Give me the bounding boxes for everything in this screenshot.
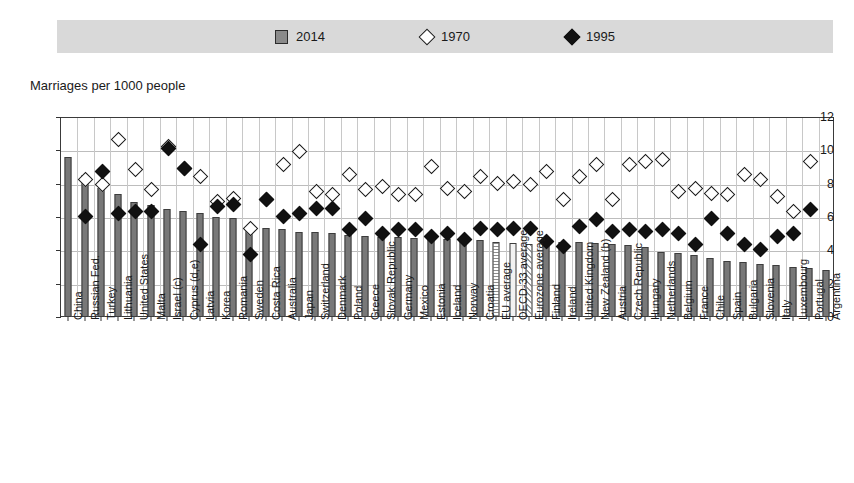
bar-2014 xyxy=(65,157,72,317)
marker-1970 xyxy=(292,144,308,160)
marker-1970 xyxy=(457,184,473,200)
marker-1970 xyxy=(111,132,127,148)
x-axis-label: Malta xyxy=(155,293,167,320)
marker-1995 xyxy=(276,209,292,225)
x-axis-label: Switzerland xyxy=(319,263,331,320)
marker-1970 xyxy=(555,192,571,208)
marker-1970 xyxy=(473,169,489,185)
marker-1995 xyxy=(605,224,621,240)
x-axis-label: China xyxy=(72,291,84,320)
marker-1970 xyxy=(358,182,374,198)
x-axis-label: Cyprus (d,e) xyxy=(188,259,200,320)
x-axis-label: EU average xyxy=(500,262,512,320)
x-axis-label: Latvia xyxy=(204,291,216,320)
marker-1995 xyxy=(358,210,374,226)
x-axis-label: United States xyxy=(138,254,150,320)
marker-1995 xyxy=(803,202,819,218)
marker-1970 xyxy=(523,177,539,193)
x-axis-label: Slovak Republic xyxy=(385,241,397,320)
marker-1995 xyxy=(308,200,324,216)
marker-1970 xyxy=(374,179,390,195)
x-axis-label: Chile xyxy=(714,295,726,320)
x-axis-label: Poland xyxy=(352,286,364,320)
chart-plot-area: 024681012 xyxy=(30,110,834,317)
marker-1970 xyxy=(654,152,670,168)
marker-1995 xyxy=(654,222,670,238)
marker-1995 xyxy=(177,160,193,176)
x-axis-label: Norway xyxy=(467,283,479,320)
marker-1970 xyxy=(490,175,506,191)
marker-1995 xyxy=(407,222,423,238)
marker-1970 xyxy=(671,184,687,200)
marker-1995 xyxy=(473,220,489,236)
x-axis-label: Czech Republic xyxy=(632,243,644,320)
x-axis-label: United Kingdom xyxy=(583,242,595,320)
x-axis-label: OECD-33 average xyxy=(517,230,529,321)
x-axis-label: Ireland xyxy=(566,286,578,320)
filled-diamond-icon xyxy=(563,28,580,45)
x-axis-label: Germany xyxy=(402,275,414,320)
x-axis-label: Australia xyxy=(286,277,298,320)
marker-1995 xyxy=(753,242,769,258)
marker-1995 xyxy=(325,200,341,216)
marker-1970 xyxy=(539,164,555,180)
x-axis-label: Japan xyxy=(303,290,315,320)
x-axis-label: Portugal xyxy=(813,279,825,320)
marker-1995 xyxy=(621,222,637,238)
chart-column xyxy=(719,117,735,317)
marker-1970 xyxy=(753,172,769,188)
marker-1970 xyxy=(588,157,604,173)
x-axis-label: Denmark xyxy=(336,275,348,320)
legend-item-2014: 2014 xyxy=(275,29,325,44)
marker-1995 xyxy=(292,205,308,221)
bar-swatch-icon xyxy=(275,30,288,44)
x-axis-label: Italy xyxy=(780,300,792,320)
marker-1970 xyxy=(605,192,621,208)
x-axis-label: Austria xyxy=(616,286,628,320)
legend-item-1970: 1970 xyxy=(421,29,470,44)
marker-1970 xyxy=(193,169,209,185)
marker-1995 xyxy=(638,224,654,240)
marker-1970 xyxy=(144,182,160,198)
x-axis-label: Korea xyxy=(220,291,232,320)
marker-1995 xyxy=(786,225,802,241)
x-axis-label: Croatia xyxy=(484,285,496,320)
chart-legend: 2014 1970 1995 xyxy=(57,20,833,53)
marker-1995 xyxy=(490,222,506,238)
x-axis-label: Greece xyxy=(369,284,381,320)
legend-label-1970: 1970 xyxy=(441,29,470,44)
marker-1970 xyxy=(424,159,440,175)
chart-column xyxy=(60,117,76,317)
marker-1970 xyxy=(621,157,637,173)
x-axis-label: Hungary xyxy=(649,278,661,320)
x-axis-label: Costa Rica xyxy=(270,266,282,320)
marker-1970 xyxy=(786,204,802,220)
legend-label-1995: 1995 xyxy=(586,29,615,44)
open-diamond-icon xyxy=(419,28,436,45)
x-axis-label: Belgium xyxy=(682,280,694,320)
x-axis-label: Romania xyxy=(237,276,249,320)
marker-1995 xyxy=(737,237,753,253)
x-axis-label: Slovenia xyxy=(764,278,776,320)
x-axis-label: Estonia xyxy=(435,283,447,320)
legend-item-1995: 1995 xyxy=(566,29,615,44)
y-axis-title: Marriages per 1000 people xyxy=(30,78,185,93)
marker-1995 xyxy=(94,164,110,180)
x-axis-label: Israel (c) xyxy=(171,277,183,320)
x-axis-label: Spain xyxy=(731,292,743,320)
marker-1970 xyxy=(407,187,423,203)
marker-1970 xyxy=(687,180,703,196)
x-axis-label: Luxembourg xyxy=(797,259,809,320)
marker-1970 xyxy=(440,180,456,196)
marker-1995 xyxy=(572,219,588,235)
marker-1970 xyxy=(572,169,588,185)
x-axis-label: Turkey xyxy=(105,287,117,320)
marker-1970 xyxy=(770,189,786,205)
marker-1995 xyxy=(720,225,736,241)
x-axis-label: New Zealand (b) xyxy=(599,239,611,320)
x-axis-label: Russian Fed. xyxy=(89,255,101,320)
marker-1995 xyxy=(588,212,604,228)
marker-1995 xyxy=(259,192,275,208)
x-axis-label: Bulgaria xyxy=(747,280,759,320)
x-axis-label: Lithuania xyxy=(122,275,134,320)
